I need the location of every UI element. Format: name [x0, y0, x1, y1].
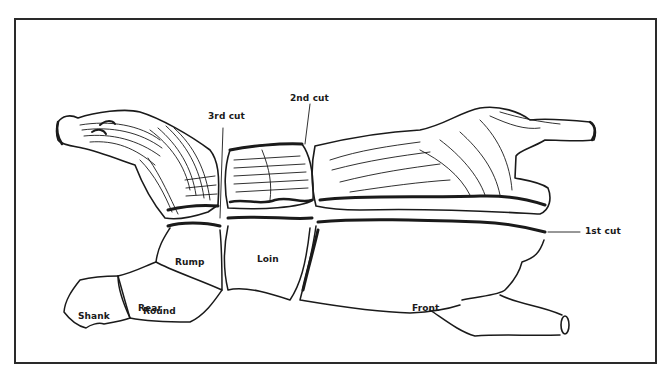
- label-1st-cut: 1st cut: [585, 226, 621, 236]
- label-shank: Shank: [78, 311, 110, 321]
- top-loin-block: [225, 144, 313, 209]
- label-rear: Rear: [138, 303, 162, 313]
- label-rump: Rump: [175, 257, 205, 267]
- top-fore-section: [312, 107, 595, 214]
- label-front: Front: [412, 303, 439, 313]
- label-2nd-cut: 2nd cut: [290, 93, 329, 103]
- label-loin: Loin: [257, 254, 279, 264]
- label-3rd-cut: 3rd cut: [208, 111, 245, 121]
- bottom-fore-section: [300, 226, 569, 336]
- top-hind-leg: [57, 110, 219, 218]
- bottom-backbone: [168, 217, 545, 232]
